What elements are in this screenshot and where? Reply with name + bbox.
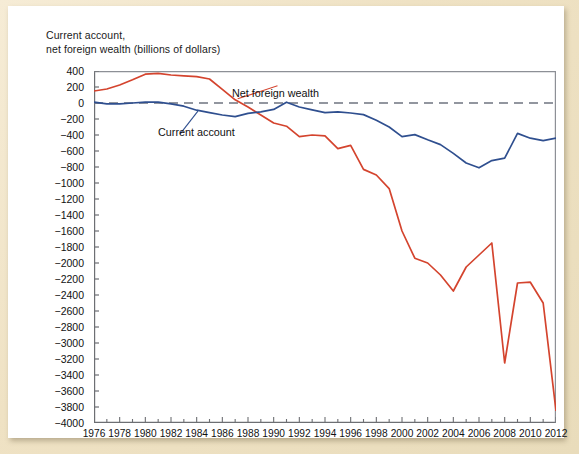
plot-area	[94, 71, 556, 423]
series-label-net-foreign-wealth: Net foreign wealth	[232, 87, 319, 99]
series-line-net-foreign-wealth	[94, 73, 556, 411]
chart-canvas	[94, 71, 556, 423]
series-label-current-account: Current account	[158, 126, 235, 138]
figure-outer-frame: Current account, net foreign wealth (bil…	[0, 0, 579, 454]
figure-card: Current account, net foreign wealth (bil…	[10, 8, 562, 435]
x-tick-label: 2012	[539, 428, 573, 439]
